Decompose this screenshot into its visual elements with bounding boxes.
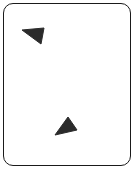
card-shapes xyxy=(0,0,138,178)
triangle-icon-bottom-center xyxy=(55,117,77,135)
triangle-icon-top-left xyxy=(22,28,44,44)
